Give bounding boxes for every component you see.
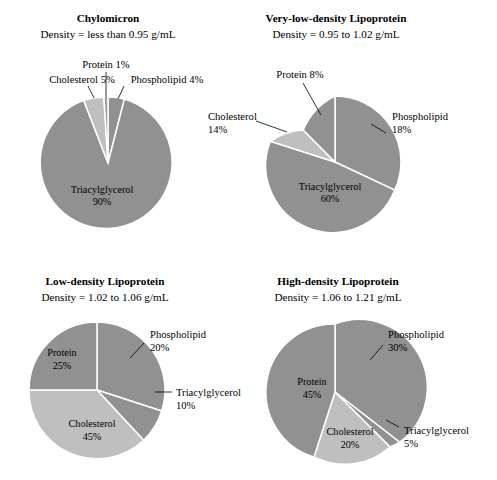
vldl-triacylglycerol-name: Triacylglycerol: [299, 181, 362, 192]
chylomicron-title: Chylomicron: [77, 12, 140, 24]
vldl-phospholipid-name: Phospholipid: [392, 111, 449, 122]
chylomicron-pie: [40, 97, 172, 228]
hdl-protein-value: 45%: [303, 389, 322, 400]
ldl-triacylglycerol-name: Triacylglycerol: [176, 387, 241, 398]
hdl-protein-name: Protein: [297, 376, 326, 387]
chylomicron-cholesterol-label: Cholesterol 5%: [49, 74, 115, 85]
ldl-phospholipid-value: 20%: [150, 342, 170, 353]
chylomicron-triacylglycerol-value: 90%: [93, 196, 112, 207]
chylomicron-triacylglycerol-name: Triacylglycerol: [71, 184, 134, 195]
vldl-cholesterol-value: 14%: [208, 124, 228, 135]
ldl-title: Low-density Lipoprotein: [46, 275, 166, 287]
hdl-title: High-density Lipoprotein: [277, 275, 399, 287]
vldl-subtitle: Density = 0.95 to 1.02 g/mL: [272, 28, 399, 40]
ldl-phospholipid-name: Phospholipid: [150, 329, 207, 340]
hdl-phospholipid-value: 30%: [388, 342, 408, 353]
ldl-triacylglycerol-value: 10%: [176, 400, 196, 411]
hdl-triacylglycerol-name: Triacylglycerol: [404, 425, 469, 436]
ldl-subtitle: Density = 1.02 to 1.06 g/mL: [41, 291, 168, 303]
vldl-phospholipid-value: 18%: [392, 124, 412, 135]
figure-svg: Chylomicron Density = less than 0.95 g/m…: [0, 0, 497, 480]
ldl-cholesterol-value: 45%: [83, 431, 102, 442]
ldl-cholesterol-name: Cholesterol: [69, 418, 116, 429]
hdl-triacylglycerol-value: 5%: [404, 438, 418, 449]
vldl-title: Very-low-density Lipoprotein: [266, 12, 408, 24]
chylomicron-phospholipid-label: Phospholipid 4%: [131, 74, 204, 85]
chylomicron-subtitle: Density = less than 0.95 g/mL: [41, 28, 176, 40]
ldl-protein-name: Protein: [47, 347, 76, 358]
hdl-cholesterol-value: 20%: [341, 439, 360, 450]
vldl-cholesterol-name: Cholesterol: [208, 111, 257, 122]
lipoprotein-composition-figure: Chylomicron Density = less than 0.95 g/m…: [0, 0, 497, 480]
ldl-protein-value: 25%: [53, 360, 72, 371]
chylomicron-protein-label: Protein 1%: [82, 59, 130, 70]
hdl-phospholipid-name: Phospholipid: [388, 329, 445, 340]
hdl-subtitle: Density = 1.06 to 1.21 g/mL: [274, 291, 401, 303]
vldl-protein-label: Protein 8%: [276, 69, 324, 80]
hdl-cholesterol-name: Cholesterol: [327, 426, 374, 437]
vldl-triacylglycerol-value: 60%: [321, 193, 340, 204]
